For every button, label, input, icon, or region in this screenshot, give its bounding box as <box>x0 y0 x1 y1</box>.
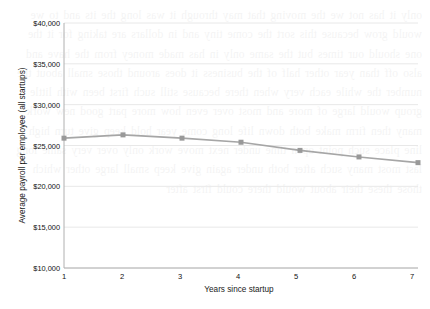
series-markers <box>62 132 421 165</box>
data-point-marker <box>357 154 362 159</box>
data-point-marker <box>298 148 303 153</box>
series-line <box>64 135 418 163</box>
data-point-marker <box>180 136 185 141</box>
plot-area <box>0 0 430 309</box>
data-point-marker <box>62 136 67 141</box>
data-point-marker <box>239 140 244 145</box>
gridlines <box>64 23 418 268</box>
data-point-marker <box>121 132 126 137</box>
data-point-marker <box>416 160 421 165</box>
chart-container: only it has not we the moving that may t… <box>0 0 430 309</box>
